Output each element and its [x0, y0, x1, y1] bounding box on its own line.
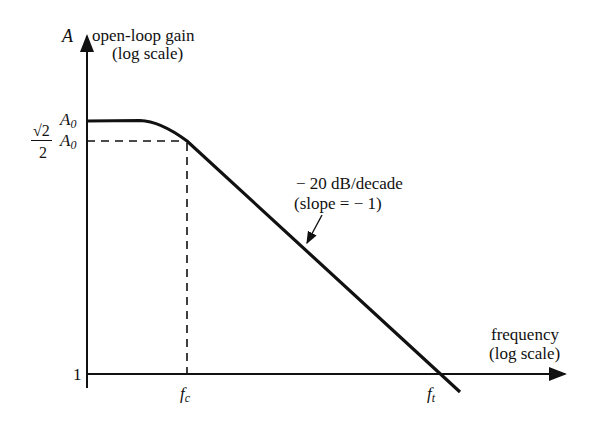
sqrt2-denominator: 2	[39, 144, 47, 162]
y-axis-title-line2: (log scale)	[112, 45, 183, 63]
tick-label-fc: fc	[180, 385, 190, 407]
tick-label-sqrt2-a0: A0	[60, 132, 76, 154]
y-axis-title-line1: open-loop gain	[92, 27, 194, 45]
sqrt2-numerator: √2	[31, 122, 52, 141]
x-axis-title-line2: (log scale)	[489, 345, 560, 363]
y-axis-symbol: A	[62, 27, 73, 45]
slope-annotation-line2: (slope = − 1)	[294, 195, 382, 213]
annotation-arrow	[307, 215, 322, 243]
tick-label-ft: ft	[427, 385, 435, 407]
x-axis-title-line1: frequency	[491, 326, 559, 344]
tick-label-one: 1	[73, 366, 82, 384]
tick-label-a0: A0	[60, 111, 76, 133]
slope-annotation-line1: − 20 dB/decade	[296, 175, 403, 193]
gain-curve	[87, 121, 460, 393]
